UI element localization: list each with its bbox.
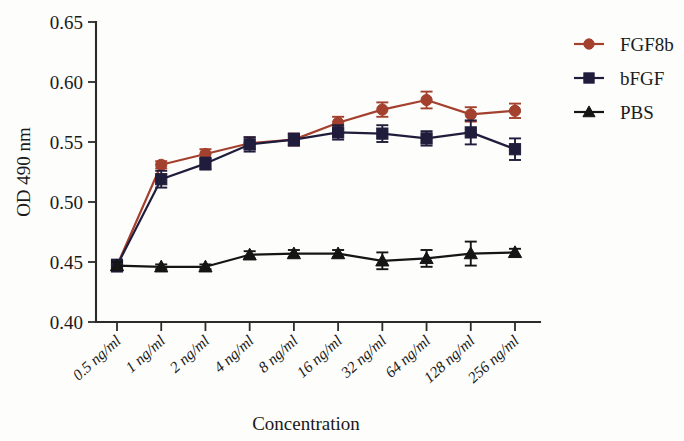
line-chart: 0.400.450.500.550.600.65OD 490 nm0.5 ng/…: [0, 0, 684, 441]
data-point-marker: [288, 134, 299, 145]
data-point-marker: [377, 104, 388, 115]
plot-area: 0.400.450.500.550.600.65OD 490 nm0.5 ng/…: [13, 12, 674, 435]
series-fgf8b: [111, 92, 521, 272]
data-point-marker: [333, 127, 344, 138]
x-tick-label: 1 ng/ml: [122, 332, 168, 376]
series-line: [117, 132, 515, 265]
series-bfgf: [111, 120, 521, 271]
y-tick-label: 0.40: [50, 312, 83, 333]
series-line: [117, 252, 515, 266]
x-axis-label: Concentration: [252, 413, 360, 434]
y-tick-label: 0.50: [50, 192, 83, 213]
y-tick-label: 0.60: [50, 72, 83, 93]
figure-container: 0.400.450.500.550.600.65OD 490 nm0.5 ng/…: [0, 0, 684, 441]
data-point-marker: [421, 133, 432, 144]
legend-label: bFGF: [620, 68, 664, 89]
x-tick-label: 32 ng/ml: [337, 332, 390, 382]
y-tick-label: 0.55: [50, 132, 83, 153]
legend-item-fgf8b[interactable]: FGF8b: [574, 34, 674, 55]
legend-item-bfgf[interactable]: bFGF: [574, 68, 664, 89]
data-point-marker: [377, 128, 388, 139]
data-point-marker: [421, 94, 432, 105]
legend-label: FGF8b: [620, 34, 674, 55]
data-point-marker: [584, 73, 594, 83]
y-axis-label: OD 490 nm: [13, 127, 34, 217]
y-tick-label: 0.45: [50, 252, 83, 273]
data-point-marker: [509, 105, 520, 116]
data-point-marker: [156, 159, 167, 170]
legend-item-pbs[interactable]: PBS: [574, 102, 654, 123]
data-point-marker: [584, 39, 594, 49]
x-tick-label: 4 ng/ml: [210, 332, 256, 376]
chart-axes: [96, 22, 540, 322]
data-point-marker: [465, 109, 476, 120]
series-pbs: [110, 242, 521, 272]
x-tick-label: 0.5 ng/ml: [69, 332, 124, 384]
data-point-marker: [465, 127, 476, 138]
x-tick-label: 16 ng/ml: [293, 332, 345, 381]
data-point-marker: [509, 144, 520, 155]
x-tick-label: 2 ng/ml: [166, 332, 212, 376]
y-tick-label: 0.65: [50, 12, 83, 33]
data-point-marker: [200, 158, 211, 169]
data-point-marker: [156, 174, 167, 185]
data-point-marker: [244, 139, 255, 150]
legend-label: PBS: [620, 102, 654, 123]
series-line: [117, 100, 515, 266]
